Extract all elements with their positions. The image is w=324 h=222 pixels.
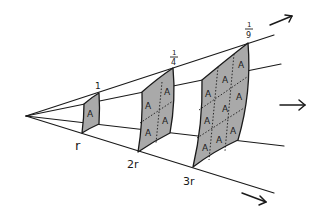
area-label: A (222, 104, 229, 114)
svg-text:1: 1 (247, 21, 251, 29)
svg-text:9: 9 (246, 31, 251, 40)
intensity-label-quarter: 1 4 (170, 49, 178, 67)
inverse-square-diagram: A 1 r A A A A 1 4 2r A A A A A A A A A (0, 0, 324, 222)
area-label: A (216, 135, 223, 145)
distance-label-2r: 2r (127, 158, 139, 171)
bottom-right-arrow-icon (242, 193, 266, 205)
svg-text:1: 1 (172, 49, 176, 57)
middle-right-arrow-icon (280, 100, 305, 110)
arrows (242, 15, 305, 205)
area-label: A (205, 89, 212, 99)
area-label: A (222, 75, 229, 85)
area-label: A (145, 101, 152, 111)
distance-label-r: r (75, 138, 81, 153)
area-label: A (236, 92, 243, 102)
area-label: A (87, 109, 94, 119)
area-label: A (238, 60, 245, 70)
panel-r: A 1 r (75, 81, 101, 153)
area-label: A (162, 116, 169, 126)
svg-text:4: 4 (171, 58, 176, 67)
top-right-arrow-icon (270, 15, 292, 25)
area-label: A (202, 143, 209, 153)
area-label: A (145, 128, 152, 138)
intensity-label-1: 1 (95, 81, 101, 91)
area-label: A (230, 126, 237, 136)
panel-3r: A A A A A A A A A 1 9 3r (183, 21, 253, 188)
intensity-label-ninth: 1 9 (245, 21, 253, 40)
area-label: A (164, 87, 171, 97)
area-label: A (204, 116, 211, 126)
panel-2r: A A A A 1 4 2r (127, 49, 178, 171)
distance-label-3r: 3r (183, 175, 195, 188)
area-panel-2 (138, 68, 174, 152)
